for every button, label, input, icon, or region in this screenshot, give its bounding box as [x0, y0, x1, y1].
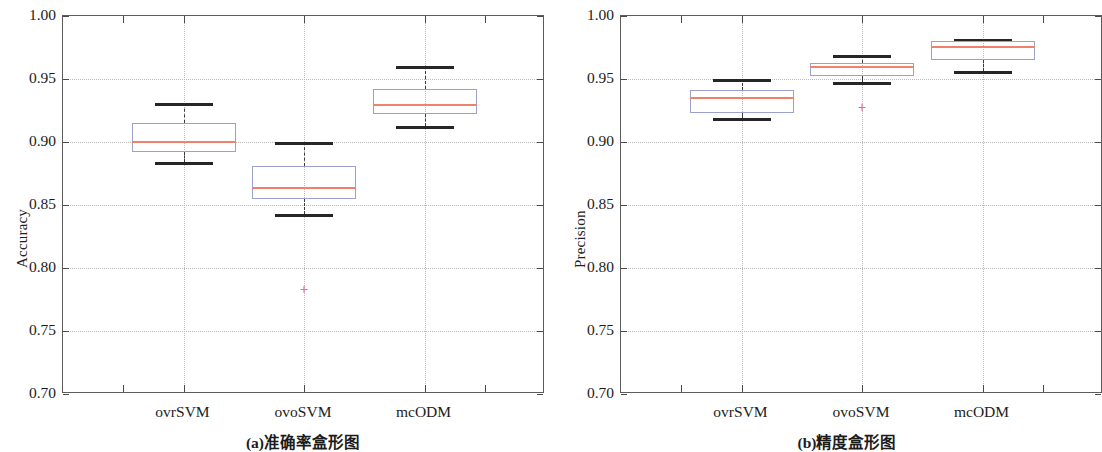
cap-upper — [713, 79, 771, 82]
median-line — [931, 46, 1035, 48]
y-tick-label: 1.00 — [4, 6, 56, 24]
box-ovrsvm — [132, 123, 236, 152]
y-tick-mark — [537, 79, 543, 80]
y-tick-label: 0.90 — [4, 132, 56, 150]
y-tick-label: 0.75 — [4, 321, 56, 339]
y-tick-mark — [621, 16, 627, 17]
x-tick-mark-minor — [485, 385, 486, 392]
plot-area-accuracy: + — [62, 15, 544, 393]
x-tick-mark-minor — [1043, 385, 1044, 392]
x-tick-label-mcodm: mcODM — [396, 403, 451, 421]
panel-precision: Precision + 1.000.950.900.850.800.750.70… — [544, 0, 1088, 452]
y-tick-mark — [1095, 394, 1101, 395]
x-tick-label-ovosvm: ovoSVM — [275, 403, 332, 421]
y-tick-mark — [537, 268, 543, 269]
cap-lower — [833, 82, 891, 85]
x-tick-label-ovosvm: ovoSVM — [833, 403, 890, 421]
x-tick-mark-minor — [123, 385, 124, 392]
x-tick-mark — [983, 16, 984, 23]
x-tick-mark-minor — [1043, 16, 1044, 23]
cap-upper — [396, 66, 454, 69]
cap-lower — [713, 118, 771, 121]
y-tick-mark — [537, 142, 543, 143]
median-line — [373, 104, 477, 106]
x-tick-mark-minor — [485, 16, 486, 23]
x-tick-label-mcodm: mcODM — [954, 403, 1009, 421]
x-tick-mark — [425, 385, 426, 392]
x-tick-mark — [304, 385, 305, 392]
y-tick-label: 0.90 — [562, 132, 614, 150]
y-tick-label: 0.80 — [4, 258, 56, 276]
y-tick-mark — [63, 79, 69, 80]
y-tick-label: 0.80 — [562, 258, 614, 276]
median-line — [690, 97, 794, 99]
y-tick-mark — [1095, 142, 1101, 143]
y-tick-mark — [537, 394, 543, 395]
x-tick-mark-minor — [681, 385, 682, 392]
outlier-marker: + — [300, 282, 308, 296]
y-tick-mark — [63, 331, 69, 332]
y-tick-label: 0.95 — [562, 69, 614, 87]
gridline-horizontal — [621, 205, 1101, 206]
x-tick-mark — [862, 16, 863, 23]
whisker-upper — [425, 66, 426, 89]
plot-area-precision: + — [620, 15, 1102, 393]
gridline-horizontal — [621, 331, 1101, 332]
y-tick-mark — [537, 331, 543, 332]
cap-upper — [155, 103, 213, 106]
whisker-upper — [184, 103, 185, 123]
y-tick-mark — [1095, 16, 1101, 17]
gridline-horizontal — [63, 268, 543, 269]
gridline-horizontal — [621, 142, 1101, 143]
caption-accuracy: (a)准确率盒形图 — [246, 430, 360, 452]
whisker-lower — [184, 152, 185, 162]
y-tick-mark — [537, 205, 543, 206]
cap-upper — [275, 142, 333, 145]
y-tick-label: 0.95 — [4, 69, 56, 87]
y-tick-mark — [621, 142, 627, 143]
caption-precision: (b)精度盒形图 — [798, 430, 897, 452]
median-line — [252, 187, 356, 189]
y-tick-mark — [1095, 268, 1101, 269]
cap-upper — [833, 55, 891, 58]
y-tick-mark — [63, 268, 69, 269]
y-tick-mark — [621, 331, 627, 332]
y-tick-mark — [1095, 331, 1101, 332]
y-tick-label: 0.75 — [562, 321, 614, 339]
box-ovrsvm — [690, 90, 794, 113]
x-tick-label-ovrsvm: ovrSVM — [155, 403, 209, 421]
whisker-upper — [304, 142, 305, 166]
y-tick-mark — [621, 205, 627, 206]
gridline-horizontal — [621, 268, 1101, 269]
y-tick-mark — [621, 79, 627, 80]
y-tick-mark — [537, 16, 543, 17]
gridline-horizontal — [63, 79, 543, 80]
x-tick-mark-minor — [123, 16, 124, 23]
x-tick-mark — [184, 385, 185, 392]
box-ovosvm — [810, 63, 914, 77]
gridline-horizontal — [63, 205, 543, 206]
cap-lower — [396, 126, 454, 129]
y-tick-mark — [63, 205, 69, 206]
y-tick-mark — [63, 16, 69, 17]
gridline-vertical — [184, 16, 185, 392]
outlier-marker: + — [858, 100, 866, 114]
y-tick-mark — [621, 394, 627, 395]
x-tick-mark-minor — [681, 16, 682, 23]
box-mcodm — [373, 89, 477, 114]
x-tick-mark — [862, 385, 863, 392]
y-tick-mark — [63, 394, 69, 395]
x-tick-mark — [983, 385, 984, 392]
box-ovosvm — [252, 166, 356, 199]
median-line — [810, 66, 914, 68]
cap-lower — [954, 71, 1012, 74]
y-tick-mark — [1095, 79, 1101, 80]
whisker-lower — [983, 60, 984, 71]
gridline-horizontal — [63, 331, 543, 332]
box-mcodm — [931, 41, 1035, 60]
x-tick-mark — [304, 16, 305, 23]
cap-lower — [155, 162, 213, 165]
x-tick-mark — [425, 16, 426, 23]
x-tick-label-ovrsvm: ovrSVM — [713, 403, 767, 421]
